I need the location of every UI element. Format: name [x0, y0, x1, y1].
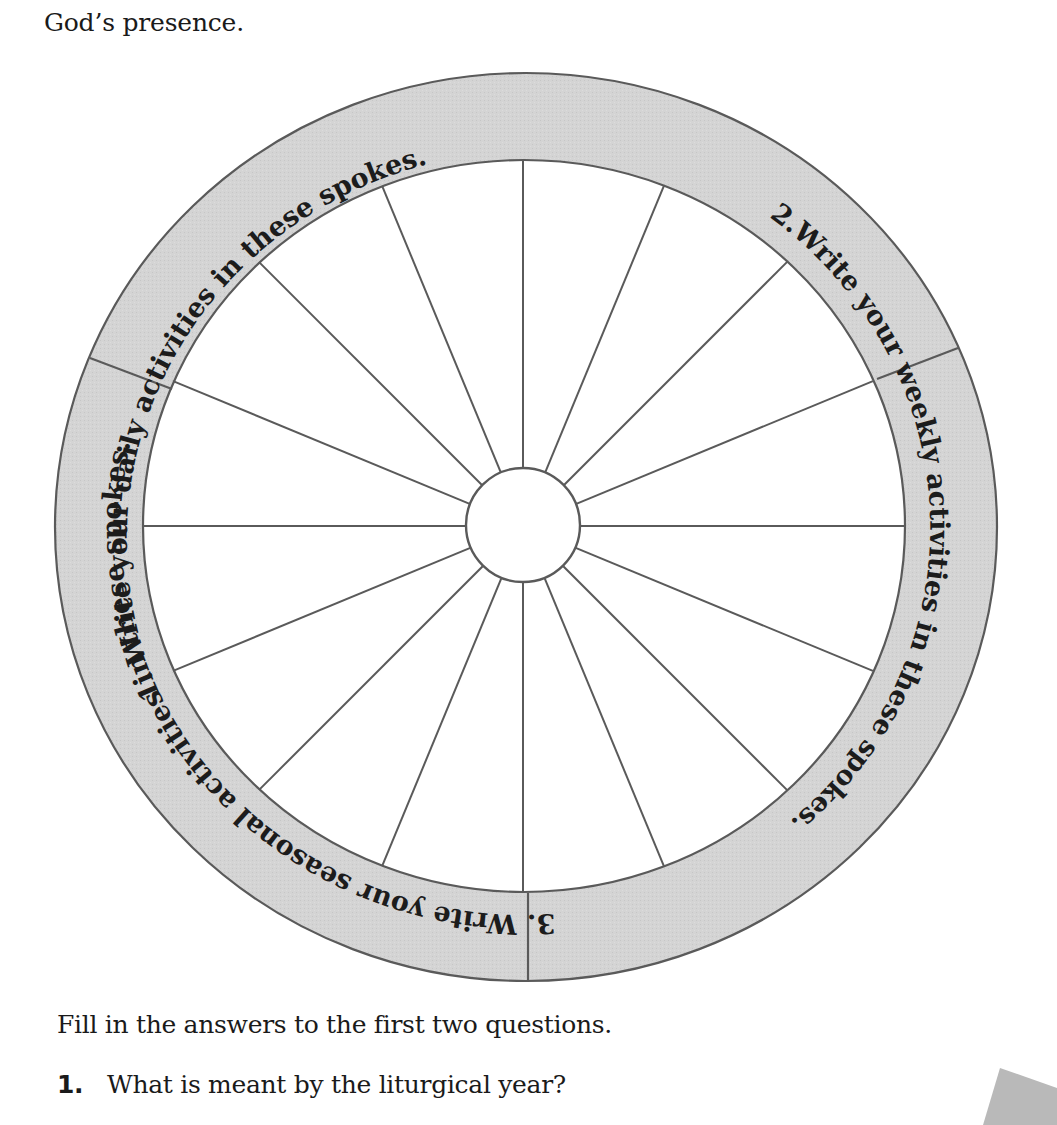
activity-wheel: 1. Write your daily activities in these … — [0, 0, 1057, 1125]
question-1: 1. What is meant by the liturgical year? — [57, 1068, 566, 1102]
question-text: What is meant by the liturgical year? — [107, 1068, 566, 1102]
instructions-text: Fill in the answers to the first two que… — [57, 1008, 612, 1042]
wheel-hub — [466, 468, 580, 582]
question-number: 1. — [57, 1068, 107, 1102]
